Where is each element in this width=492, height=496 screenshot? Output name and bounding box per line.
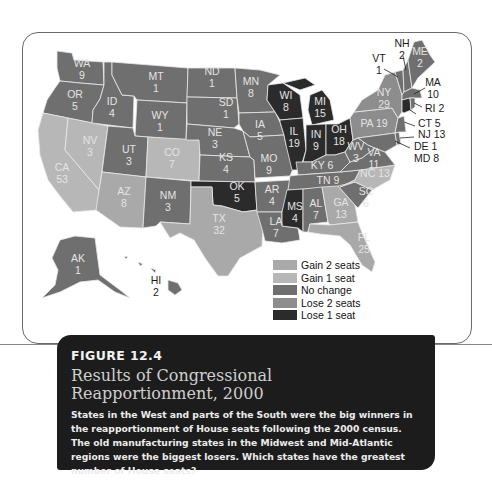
figure-title-line-1: Results of Congressional	[71, 367, 421, 385]
figure-number: FIGURE 12.4	[71, 348, 421, 363]
state-CT	[402, 98, 411, 113]
svg-text:GA13: GA13	[333, 196, 348, 220]
legend-item-gain-2: Gain 2 seats	[273, 259, 361, 272]
svg-text:NJ 13: NJ 13	[418, 128, 446, 140]
figure-title-line-2: Reapportionment, 2000	[71, 385, 421, 403]
svg-text:VT1: VT1	[372, 52, 386, 76]
map-legend: Gain 2 seats Gain 1 seat No change Lose …	[273, 259, 361, 322]
svg-text:RI 2: RI 2	[425, 102, 444, 114]
legend-item-lose-1: Lose 1 seat	[273, 309, 361, 322]
legend-swatch	[273, 298, 297, 308]
legend-item-gain-1: Gain 1 seat	[273, 272, 361, 285]
svg-text:NH2: NH2	[394, 37, 409, 61]
state-RI	[410, 98, 415, 110]
svg-text:DE 1: DE 1	[414, 140, 438, 152]
legend-swatch	[273, 310, 297, 320]
svg-text:HI2: HI2	[151, 274, 162, 298]
svg-text:NY29: NY29	[377, 86, 392, 110]
svg-text:CA53: CA53	[55, 161, 70, 185]
svg-text:MA10: MA10	[425, 76, 441, 100]
svg-text:FL25: FL25	[358, 231, 370, 255]
legend-label: Gain 1 seat	[301, 272, 355, 284]
svg-text:VA11: VA11	[367, 146, 380, 170]
legend-label: Gain 2 seats	[301, 259, 360, 271]
legend-swatch	[273, 260, 297, 270]
figure-description: States in the West and parts of the Sout…	[71, 408, 421, 478]
state-AK	[42, 236, 130, 298]
legend-label: No change	[301, 284, 352, 296]
svg-text:PA 19: PA 19	[360, 117, 387, 129]
legend-item-no-change: No change	[273, 284, 361, 297]
legend-label: Lose 1 seat	[301, 309, 355, 321]
svg-text:MD 8: MD 8	[414, 152, 439, 164]
svg-text:IL19: IL19	[288, 125, 300, 149]
legend-item-lose-2: Lose 2 seats	[273, 297, 361, 310]
legend-swatch	[273, 273, 297, 283]
svg-text:KY 6: KY 6	[311, 159, 334, 171]
svg-text:OH18: OH18	[331, 123, 347, 147]
figure-title: Results of Congressional Reapportionment…	[71, 367, 421, 403]
svg-text:TN 9: TN 9	[317, 174, 340, 186]
legend-swatch	[273, 285, 297, 295]
svg-text:TX32: TX32	[212, 212, 225, 236]
svg-text:MI15: MI15	[314, 95, 326, 119]
legend-label: Lose 2 seats	[301, 297, 361, 309]
figure-caption: FIGURE 12.4 Results of Congressional Rea…	[57, 335, 435, 470]
